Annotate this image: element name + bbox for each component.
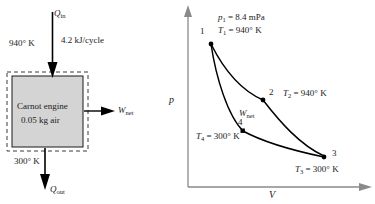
heat-in-label: Qin (54, 8, 66, 21)
engine-box-line-2: 0.05 kg air (21, 115, 60, 125)
process-curve-1-2 (211, 44, 263, 100)
thermodynamics-figure: Qin 940° K 4.2 kJ/cycle Carnot engine 0.… (0, 0, 375, 204)
hot-reservoir-temperature-label: 940° K (9, 38, 35, 48)
state-1-temperature-label: T1 = 940° K (218, 25, 262, 38)
process-curve-3-4 (243, 131, 324, 157)
heat-out-label: Qout (50, 184, 65, 197)
state-1-pressure-label: p1 = 8.4 mPa (218, 12, 265, 25)
state-point-1-marker (209, 42, 214, 47)
state-2-marker-label: 2 (269, 87, 274, 97)
pressure-axis (184, 5, 192, 187)
work-out-arrow (84, 107, 115, 116)
state-1-marker-label: 1 (200, 26, 205, 36)
state-4-marker-label: 4 (238, 117, 243, 127)
heat-in-value-label: 4.2 kJ/cycle (61, 35, 104, 45)
cold-reservoir-temperature-label: 300° K (14, 156, 40, 166)
pressure-axis-label: p (169, 95, 174, 105)
state-point-3-marker (322, 155, 327, 160)
state-point-2-marker (261, 98, 266, 103)
state-3-marker-label: 3 (332, 148, 337, 158)
volume-axis (188, 183, 372, 191)
state-4-temperature-label: T4 = 300° K (196, 131, 240, 144)
net-work-label-left: Wnet (118, 105, 133, 118)
state-point-4-marker (241, 129, 245, 133)
carnot-engine-box (12, 76, 83, 147)
engine-box-line-1: Carnot engine (17, 101, 68, 111)
volume-axis-label: V (269, 190, 275, 200)
state-3-temperature-label: T3 = 300° K (295, 164, 339, 177)
heat-out-arrow (40, 148, 50, 190)
heat-in-arrow (48, 12, 58, 78)
state-2-temperature-label: T2 = 940° K (283, 88, 327, 101)
process-curve-2-3 (263, 100, 324, 156)
